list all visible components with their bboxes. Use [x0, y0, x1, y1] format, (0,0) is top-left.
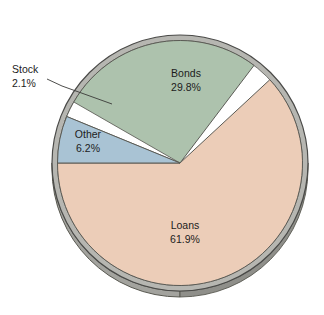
other-label-value: 6.2% [76, 142, 100, 154]
other-label-name: Other [75, 128, 102, 140]
stock-label-name: Stock [12, 63, 39, 75]
bonds-label-value: 29.8% [171, 81, 201, 93]
stock-label-value: 2.1% [12, 77, 36, 89]
loans-label-value: 61.9% [170, 233, 200, 245]
loans-label-name: Loans [171, 219, 200, 231]
bonds-label-name: Bonds [171, 67, 201, 79]
pie-chart-svg: Bonds 29.8% Loans 61.9% Other 6.2% Stock… [0, 0, 324, 315]
pie-chart: Bonds 29.8% Loans 61.9% Other 6.2% Stock… [0, 0, 324, 315]
